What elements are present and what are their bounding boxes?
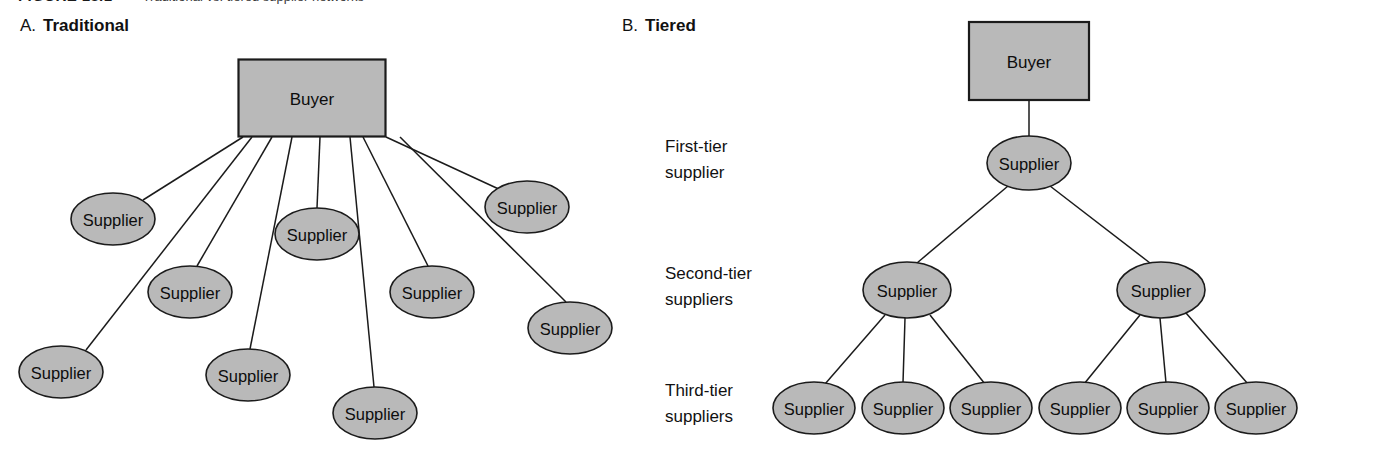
panel-a-supplier-node[interactable]: Supplier (275, 208, 359, 260)
figure-root: FIGURE 13.1 Traditional vs. tiered suppl… (0, 0, 1388, 470)
panel-a-supplier-node[interactable]: Supplier (148, 266, 232, 318)
panel-b-tier-label-group: First-tiersupplierSecond-tiersuppliersTh… (665, 137, 752, 426)
panel-a-edge (386, 137, 503, 191)
panel-b-buyer-node[interactable]: Buyer (969, 22, 1089, 100)
panel-b-tier3-supplier-label: Supplier (1226, 400, 1287, 418)
panel-a-supplier-label: Supplier (83, 211, 144, 229)
panel-b-buyer-label: Buyer (1007, 53, 1052, 72)
panel-b-tier3-supplier-node[interactable]: Supplier (1215, 382, 1297, 434)
panel-b-tier3-supplier-label: Supplier (961, 400, 1022, 418)
panel-a-supplier-label: Supplier (160, 284, 221, 302)
tier-label-second: Second-tiersuppliers (665, 264, 752, 309)
panel-b-tier3-supplier-label: Supplier (1050, 400, 1111, 418)
panel-a-supplier-label: Supplier (345, 405, 406, 423)
panel-b-tier1-supplier-label: Supplier (999, 155, 1060, 173)
panel-b-tier3-supplier-label: Supplier (1138, 400, 1199, 418)
panel-a-edge (363, 137, 428, 266)
panel-b-tier3-supplier-node[interactable]: Supplier (950, 382, 1032, 434)
panel-b-tier3-supplier-node[interactable]: Supplier (1127, 382, 1209, 434)
panel-b-edge (825, 315, 885, 384)
panel-a-supplier-label: Supplier (402, 284, 463, 302)
tier-label-first: First-tiersupplier (665, 137, 728, 182)
panel-b-edge (903, 318, 905, 383)
panel-b-tier3-supplier-label: Supplier (784, 400, 845, 418)
panel-a-supplier-node[interactable]: Supplier (333, 387, 417, 439)
panel-a-supplier-label: Supplier (31, 364, 92, 382)
panel-b-edge (1050, 186, 1150, 263)
panel-a-edge-group (86, 137, 566, 387)
panel-a-supplier-label: Supplier (287, 226, 348, 244)
tier-label-line1: First-tier (665, 137, 728, 156)
tier-label-line1: Third-tier (665, 381, 733, 400)
panel-b-tier3-supplier-node[interactable]: Supplier (1039, 382, 1121, 434)
tier-label-line2: supplier (665, 163, 725, 182)
panel-a-node-group: BuyerSupplierSupplierSupplierSupplierSup… (19, 60, 612, 440)
supply-network-diagram: BuyerSupplierSupplierSupplierSupplierSup… (0, 0, 1388, 470)
panel-b-tier1-supplier-node[interactable]: Supplier (987, 136, 1071, 190)
tier-label-line2: suppliers (665, 407, 733, 426)
panel-b-tier3-supplier-label: Supplier (873, 400, 934, 418)
tier-label-third: Third-tiersuppliers (665, 381, 733, 426)
panel-b-node-group: BuyerSupplierSupplierSupplierSupplierSup… (773, 22, 1297, 434)
panel-b-tier2-supplier-label: Supplier (877, 282, 938, 300)
panel-a-supplier-node[interactable]: Supplier (19, 346, 103, 398)
panel-b-tier2-supplier-label: Supplier (1131, 282, 1192, 300)
panel-b-tier3-supplier-node[interactable]: Supplier (773, 382, 855, 434)
panel-b-tier2-supplier-node[interactable]: Supplier (863, 262, 951, 318)
panel-a-supplier-node[interactable]: Supplier (206, 349, 290, 401)
panel-b-tier2-supplier-node[interactable]: Supplier (1117, 262, 1205, 318)
panel-a-supplier-node[interactable]: Supplier (390, 266, 474, 318)
panel-a-supplier-node[interactable]: Supplier (528, 302, 612, 354)
panel-a-edge (197, 137, 272, 266)
panel-b-edge (1186, 313, 1248, 384)
panel-b-edge (917, 186, 1008, 263)
panel-b-tier3-supplier-node[interactable]: Supplier (862, 382, 944, 434)
panel-b-edge (1084, 315, 1140, 384)
panel-a-supplier-label: Supplier (218, 367, 279, 385)
panel-a-supplier-node[interactable]: Supplier (485, 181, 569, 233)
panel-a-supplier-label: Supplier (497, 199, 558, 217)
panel-a-edge (317, 137, 320, 208)
panel-a-edge (350, 137, 374, 387)
panel-a-supplier-node[interactable]: Supplier (71, 193, 155, 245)
panel-a-supplier-label: Supplier (540, 320, 601, 338)
panel-b-edge (1160, 318, 1166, 383)
panel-a-buyer-node[interactable]: Buyer (239, 60, 386, 137)
panel-b-edge (930, 315, 985, 384)
panel-a-buyer-label: Buyer (290, 90, 335, 109)
tier-label-line2: suppliers (665, 290, 733, 309)
tier-label-line1: Second-tier (665, 264, 752, 283)
